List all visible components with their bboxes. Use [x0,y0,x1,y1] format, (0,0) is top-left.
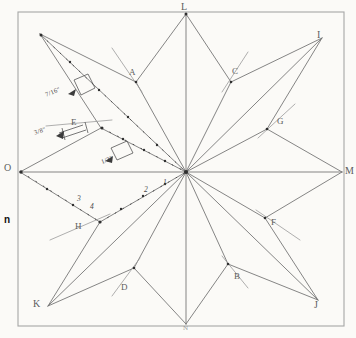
label-I: I [317,30,321,40]
tick-number-1: 1 [163,179,167,187]
edge-K-H [48,222,100,306]
label-H: H [75,222,82,231]
page-mark-n: n [4,215,10,225]
dimension-tick-lower-c [85,122,88,133]
arrow-lower [56,131,64,139]
label-E: E [71,118,77,127]
edge-M-G [267,129,342,172]
leader-A [112,48,142,92]
label-F: F [271,218,276,227]
dimension-box-center [111,141,133,160]
label-O: O [4,163,12,173]
edge-M-F [265,172,342,218]
dimension-arrows [56,89,113,163]
prick-points [19,13,268,270]
fold-C-center [186,82,231,172]
label-B: B [234,272,240,281]
edge-L-A [136,14,186,82]
edge-L-C [186,14,231,82]
star-construction-drawing [0,0,356,338]
label-M: M [345,166,354,176]
label-C: C [232,67,238,76]
tick-number-4: 4 [90,203,94,211]
label-D: D [121,283,128,292]
label-L: L [181,2,187,12]
label-bottom-vertex: N [183,325,188,332]
label-G: G [277,117,284,126]
spoke-I-center [186,38,322,172]
leader-E [46,120,112,126]
label-K: K [33,299,41,309]
leader-F [256,210,300,240]
label-J: J [314,300,318,310]
drawing-sheet: n L I M J K O H D B F G C A E N 1 2 3 4 … [0,0,356,338]
fold-F-center [186,172,265,218]
edge-N-B [186,264,228,324]
spoke-K-center [48,172,186,306]
arrow-upper [68,89,76,96]
tick-number-3: 3 [77,195,81,203]
label-A: A [129,68,136,77]
edge-J-F [265,218,318,300]
edge-N-D [134,268,186,324]
fold-D-center [134,172,186,268]
fold-B-center [186,172,228,264]
spoke-J-center [186,172,318,300]
fold-G-center [186,129,267,172]
tick-number-2: 2 [144,186,148,194]
fold-A-center [136,82,186,172]
edge-J-B [228,264,318,300]
